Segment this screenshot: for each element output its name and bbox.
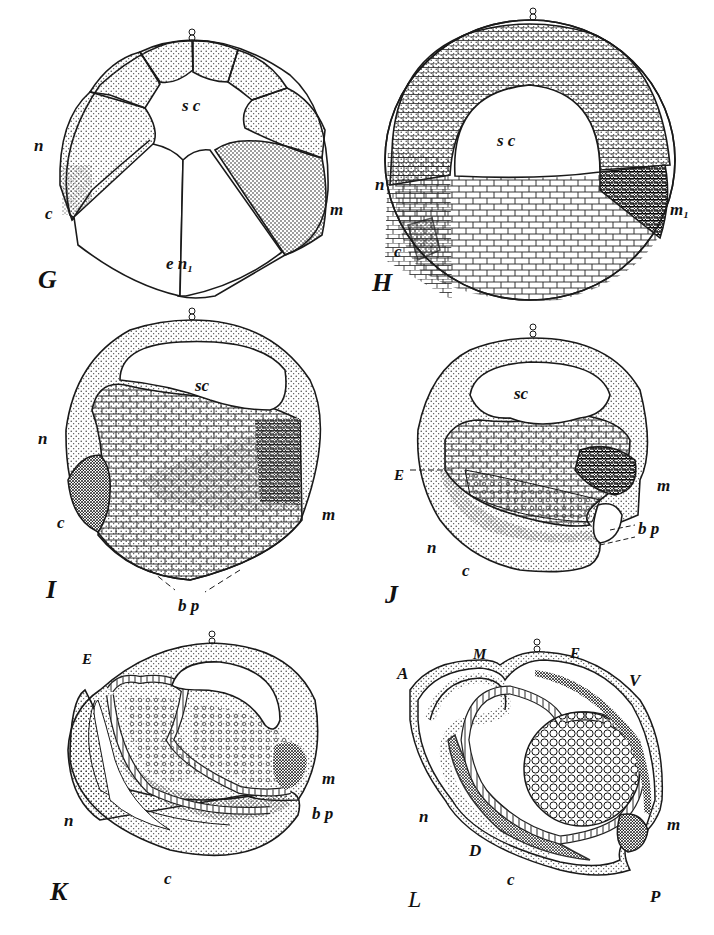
label-i-c: c <box>57 514 65 531</box>
figure-letter-l: L <box>408 887 421 911</box>
plate-drawing <box>0 0 714 935</box>
label-l-m: m <box>667 816 680 833</box>
label-l-M: M <box>473 647 486 662</box>
label-j-n: n <box>427 539 436 556</box>
label-h-n: n <box>375 176 384 193</box>
label-i-m: m <box>322 506 335 523</box>
label-l-A: A <box>397 665 408 682</box>
label-j-sc: sc <box>514 385 528 402</box>
label-h-m: m₁ <box>670 201 689 218</box>
figure-l <box>410 639 662 875</box>
label-l-E: E <box>570 646 580 661</box>
figure-letter-g: G <box>38 267 57 293</box>
label-k-n: n <box>64 812 73 829</box>
figure-letter-i: I <box>46 577 56 603</box>
label-j-m: m <box>657 477 670 494</box>
label-l-V: V <box>629 672 640 689</box>
figure-h <box>385 8 675 301</box>
label-l-c: c <box>507 871 515 888</box>
label-k-c: c <box>164 870 172 887</box>
label-g-sc: s c <box>182 97 200 114</box>
figure-g <box>60 29 328 298</box>
label-k-E: E <box>82 652 92 667</box>
label-i-sc: sc <box>195 377 209 394</box>
label-j-bp: b p <box>638 520 659 537</box>
label-g-n: n <box>34 137 43 154</box>
label-k-m: m <box>322 770 335 787</box>
label-h-sc: s c <box>497 132 515 149</box>
label-g-en: e n₁ <box>166 255 193 272</box>
figure-i <box>66 308 320 592</box>
label-h-c: c <box>394 243 402 260</box>
label-g-m: m <box>330 201 343 218</box>
label-j-c: c <box>462 562 470 579</box>
label-l-P: P <box>650 888 660 905</box>
label-l-D: D <box>469 842 481 859</box>
label-i-bp: b p <box>178 597 199 614</box>
label-i-n: n <box>38 430 47 447</box>
figure-letter-j: J <box>385 582 398 608</box>
figure-letter-h: H <box>372 270 392 296</box>
figure-j <box>410 324 648 572</box>
label-l-n: n <box>419 808 428 825</box>
label-k-bp: b p <box>312 805 333 822</box>
label-j-E: E <box>394 468 404 483</box>
embryology-plate: s c n c m e n₁ G s c n c m₁ H sc n c m b… <box>0 0 714 935</box>
label-g-c: c <box>45 205 53 222</box>
figure-k <box>68 631 318 855</box>
figure-letter-k: K <box>50 879 67 905</box>
